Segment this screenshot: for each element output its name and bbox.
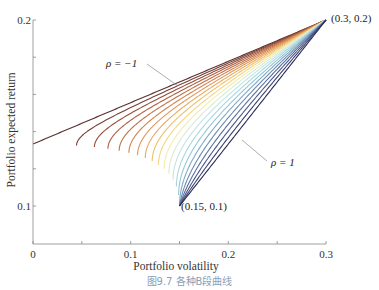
rho-minus-one-leader — [147, 64, 178, 86]
curve-rho--1 — [33, 20, 326, 144]
chart-svg: 0 0.1 0.2 0.3 0.2 0.1 Portfolio volatili… — [0, 0, 379, 290]
y-ticks — [33, 20, 36, 206]
x-axis-label: Portfolio volatility — [133, 260, 219, 273]
y-tick-0.2: 0.2 — [17, 14, 31, 26]
annotation-asset2: (0.3, 0.2) — [331, 12, 372, 25]
y-tick-0.1: 0.1 — [17, 200, 31, 212]
curve-rho-1 — [180, 20, 327, 206]
annotation-asset1: (0.15, 0.1) — [181, 200, 227, 213]
portfolio-curves — [33, 20, 326, 206]
rho-plus-one-label: ρ = 1 — [270, 156, 295, 168]
y-axis-label: Portfolio expected return — [5, 72, 18, 187]
x-tick-0.1: 0.1 — [124, 248, 138, 260]
x-tick-0.3: 0.3 — [319, 248, 333, 260]
rho-minus-one-label: ρ = −1 — [105, 57, 137, 69]
x-tick-0.2: 0.2 — [221, 248, 235, 260]
figure-caption: 图9.7 各种B段曲线 — [0, 273, 379, 288]
rho-plus-one-leader — [242, 140, 267, 161]
x-tick-0: 0 — [30, 248, 36, 260]
x-ticks — [33, 241, 326, 244]
